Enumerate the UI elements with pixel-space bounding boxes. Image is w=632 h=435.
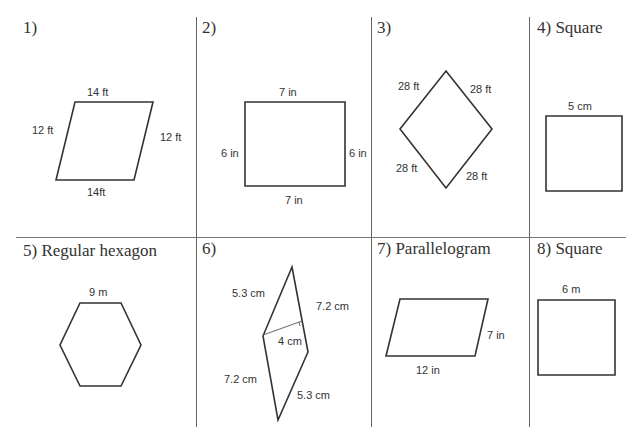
p6-top-left-dim: 5.3 cm <box>232 287 265 299</box>
p6-top-right-dim: 7.2 cm <box>316 300 349 312</box>
problem-8-label: 8) Square <box>537 239 603 259</box>
problem-1-label: 1) <box>23 18 37 38</box>
p1-bottom-dim: 14ft <box>87 186 105 198</box>
p6-bottom-right-dim: 5.3 cm <box>297 389 330 401</box>
problem-6-label: 6) <box>202 239 216 259</box>
shape-2-rectangle <box>245 102 345 186</box>
p7-right-dim: 7 in <box>487 329 505 341</box>
p3-bottom-right-dim: 28 ft <box>466 170 487 182</box>
p1-top-dim: 14 ft <box>87 86 108 98</box>
p2-left-dim: 6 in <box>221 147 239 159</box>
p2-right-dim: 6 in <box>349 147 367 159</box>
p1-left-dim: 12 ft <box>32 124 53 136</box>
p6-height-dim: 4 cm <box>278 335 302 347</box>
p6-bottom-left-dim: 7.2 cm <box>224 373 257 385</box>
p7-bottom-dim: 12 in <box>416 364 440 376</box>
problem-7-label: 7) Parallelogram <box>377 239 491 259</box>
shape-6-right-angle-mark <box>299 322 300 326</box>
shapes-layer <box>0 0 632 435</box>
problem-2-label: 2) <box>202 18 216 38</box>
p8-top-dim: 6 m <box>562 283 580 295</box>
p3-top-right-dim: 28 ft <box>470 83 491 95</box>
geometry-worksheet: 1) 2) 3) 4) Square 5) Regular hexagon 6)… <box>0 0 632 435</box>
p4-top-dim: 5 cm <box>568 100 592 112</box>
p1-right-dim: 12 ft <box>160 131 181 143</box>
shape-5-hexagon <box>60 303 141 386</box>
p5-top-dim: 9 m <box>89 286 107 298</box>
p2-top-dim: 7 in <box>279 86 297 98</box>
p2-bottom-dim: 7 in <box>285 194 303 206</box>
problem-4-label: 4) Square <box>537 18 603 38</box>
problem-3-label: 3) <box>377 18 391 38</box>
shape-7-parallelogram <box>386 299 488 356</box>
shape-8-square <box>538 300 615 375</box>
p3-top-left-dim: 28 ft <box>398 80 419 92</box>
shape-1-parallelogram <box>56 102 153 180</box>
shape-4-square <box>546 116 622 191</box>
p3-bottom-left-dim: 28 ft <box>396 162 417 174</box>
problem-5-label: 5) Regular hexagon <box>23 241 157 261</box>
